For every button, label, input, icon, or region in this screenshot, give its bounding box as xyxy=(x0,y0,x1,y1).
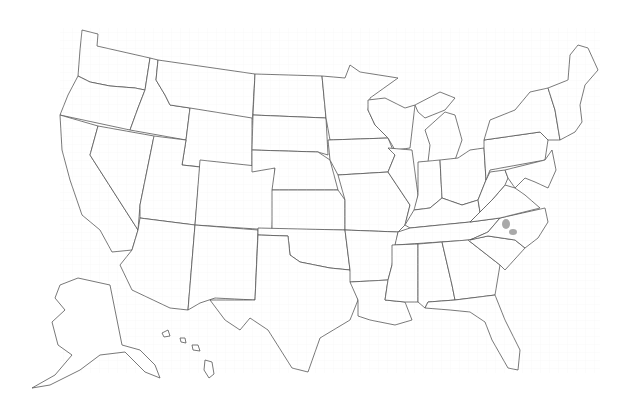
county-texture xyxy=(60,28,600,373)
highlight-county-1 xyxy=(502,219,510,229)
us-county-map xyxy=(0,0,634,410)
highlight-county-2 xyxy=(509,229,517,235)
